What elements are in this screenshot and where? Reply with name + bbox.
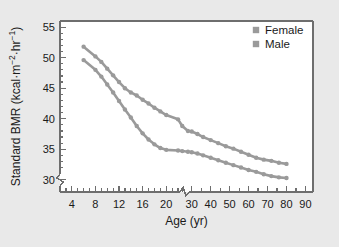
data-point-marker — [81, 58, 85, 62]
data-point-marker — [284, 162, 288, 166]
data-point-marker — [277, 175, 281, 179]
data-point-marker — [224, 144, 228, 148]
y-tick-label: 45 — [43, 82, 55, 94]
data-point-marker — [239, 149, 243, 153]
data-point-marker — [135, 124, 139, 128]
data-point-marker — [186, 129, 190, 133]
data-point-marker — [208, 138, 212, 142]
data-point-marker — [129, 90, 133, 94]
x-tick-label: 70 — [261, 198, 273, 210]
x-tick-label: 12 — [113, 198, 125, 210]
data-point-marker — [254, 170, 258, 174]
data-point-marker — [176, 148, 180, 152]
data-point-marker — [81, 44, 85, 48]
legend-label-male: Male — [265, 38, 290, 50]
y-axis-title: Standard BMR (kcal·m−2·hr−1) — [7, 27, 23, 186]
data-point-marker — [105, 82, 109, 86]
x-axis-title: Age (yr) — [165, 214, 208, 228]
data-point-marker — [190, 129, 194, 133]
data-point-marker — [123, 107, 127, 111]
data-point-marker — [195, 132, 199, 136]
data-point-marker — [164, 148, 168, 152]
data-point-marker — [231, 146, 235, 150]
data-point-marker — [93, 54, 97, 58]
data-point-marker — [277, 160, 281, 164]
data-point-marker — [262, 157, 266, 161]
y-tick-label: 40 — [43, 113, 55, 125]
data-point-marker — [140, 131, 144, 135]
data-point-marker — [140, 98, 144, 102]
data-point-marker — [129, 115, 133, 119]
x-tick-label: 8 — [92, 198, 98, 210]
bmr-vs-age-line-chart: 3035404550554812162030405060708090Age (y… — [0, 0, 339, 247]
data-point-marker — [269, 159, 273, 163]
y-tick-label: 55 — [43, 21, 55, 33]
data-point-marker — [201, 153, 205, 157]
data-point-marker — [152, 142, 156, 146]
x-tick-label: 90 — [299, 198, 311, 210]
x-tick-label: 30 — [186, 198, 198, 210]
data-point-marker — [158, 109, 162, 113]
data-point-marker — [99, 60, 103, 64]
legend-label-female: Female — [265, 24, 303, 36]
data-point-marker — [216, 141, 220, 145]
legend-marker-male — [252, 40, 260, 48]
data-point-marker — [254, 156, 258, 160]
data-point-marker — [224, 160, 228, 164]
data-point-marker — [123, 86, 127, 90]
data-point-marker — [117, 80, 121, 84]
data-point-marker — [246, 168, 250, 172]
data-point-marker — [284, 176, 288, 180]
data-point-marker — [201, 135, 205, 139]
figure-container: 3035404550554812162030405060708090Age (y… — [0, 0, 339, 247]
x-tick-label: 40 — [205, 198, 217, 210]
data-point-marker — [111, 73, 115, 77]
data-point-marker — [190, 150, 194, 154]
data-point-marker — [146, 137, 150, 141]
data-point-marker — [231, 163, 235, 167]
x-tick-label: 50 — [224, 198, 236, 210]
data-point-marker — [180, 124, 184, 128]
x-tick-label: 4 — [69, 198, 75, 210]
data-point-marker — [105, 66, 109, 70]
data-point-marker — [135, 93, 139, 97]
data-point-marker — [262, 172, 266, 176]
data-point-marker — [93, 68, 97, 72]
data-point-marker — [164, 113, 168, 117]
data-point-marker — [195, 151, 199, 155]
y-tick-label: 35 — [43, 143, 55, 155]
data-point-marker — [146, 101, 150, 105]
data-point-marker — [208, 156, 212, 160]
data-point-marker — [269, 174, 273, 178]
data-point-marker — [158, 146, 162, 150]
x-tick-label: 20 — [160, 198, 172, 210]
data-point-marker — [246, 153, 250, 157]
data-point-marker — [186, 149, 190, 153]
y-tick-label: 50 — [43, 52, 55, 64]
legend-marker-female — [252, 26, 260, 34]
data-point-marker — [152, 106, 156, 110]
y-tick-label: 30 — [43, 174, 55, 186]
data-point-marker — [239, 165, 243, 169]
data-point-marker — [111, 90, 115, 94]
data-point-marker — [180, 149, 184, 153]
data-point-marker — [99, 74, 103, 78]
data-point-marker — [176, 117, 180, 121]
x-tick-label: 80 — [280, 198, 292, 210]
data-point-marker — [216, 158, 220, 162]
data-point-marker — [117, 99, 121, 103]
x-tick-label: 16 — [137, 198, 149, 210]
x-tick-label: 60 — [242, 198, 254, 210]
